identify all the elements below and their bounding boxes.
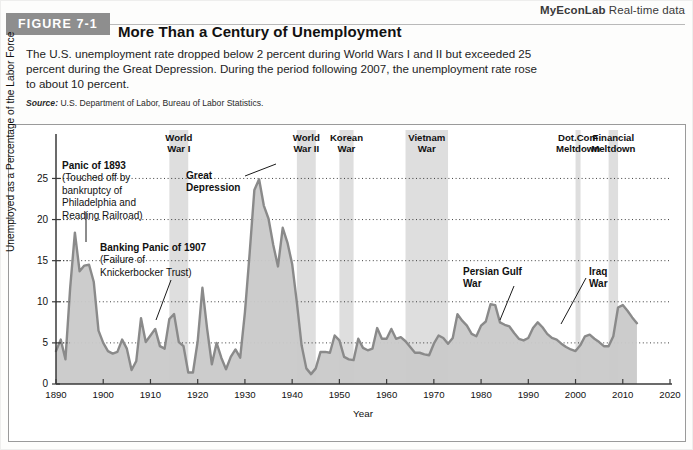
band-label-vietnam-war: VietnamWar [395, 132, 459, 155]
y-tick-label-20: 20 [37, 214, 49, 225]
myeconlab-label: MyEconLab Real-time data [540, 4, 685, 16]
y-axis-title: Unemployed as a Percentage of the Labor … [5, 32, 16, 252]
x-tick-label-1980: 1980 [470, 389, 491, 400]
x-tick-label-1990: 1990 [518, 389, 539, 400]
x-tick-label-1940: 1940 [281, 389, 302, 400]
band-label-line1: Financial [593, 132, 635, 143]
band-label-line1: Korean [330, 132, 363, 143]
y-tick-label-15: 15 [37, 255, 49, 266]
annotation-great-depression: GreatDepression [186, 170, 266, 195]
band-label-line2: Meltdown [591, 143, 635, 154]
y-tick-label-10: 10 [37, 296, 49, 307]
source-text: U.S. Department of Labor, Bureau of Labo… [58, 98, 263, 108]
x-tick-label-2010: 2010 [612, 389, 633, 400]
chart-container: 0510152025189019001910192019301940195019… [8, 124, 686, 442]
band-label-line1: Vietnam [408, 132, 445, 143]
x-tick-label-1920: 1920 [187, 389, 208, 400]
y-tick-label-0: 0 [42, 378, 48, 389]
band-label-world-war-i: WorldWar I [147, 132, 211, 155]
band-label-line2: War [338, 143, 356, 154]
source-label: Source: [26, 98, 58, 108]
annotation-persian-gulf-war: Persian GulfWar [463, 266, 543, 291]
x-tick-label-1890: 1890 [45, 389, 66, 400]
x-tick-label-1910: 1910 [140, 389, 161, 400]
figure-description: The U.S. unemployment rate dropped below… [26, 46, 546, 92]
band-label-korean-war: KoreanWar [314, 132, 378, 155]
x-axis-title: Year [353, 408, 374, 419]
x-tick-label-1950: 1950 [329, 389, 350, 400]
x-tick-label-2020: 2020 [659, 389, 680, 400]
y-tick-label-25: 25 [37, 173, 49, 184]
band-label-line1: World [165, 132, 192, 143]
x-tick-label-1900: 1900 [93, 389, 114, 400]
band-label-financial-meltdown: FinancialMeltdown [581, 132, 645, 155]
band-label-line2: War I [167, 143, 190, 154]
annotation-panic-1893: Panic of 1893(Touched off bybankruptcy o… [62, 160, 182, 222]
band-label-line2: War [418, 143, 436, 154]
x-tick-label-1960: 1960 [376, 389, 397, 400]
myeconlab-suffix: Real-time data [606, 4, 685, 16]
page-title: More Than a Century of Unemployment [118, 23, 402, 40]
x-tick-label-1970: 1970 [423, 389, 444, 400]
annotation-title: Banking Panic of 1907 [100, 242, 206, 253]
annotation-iraq-war: IraqWar [589, 266, 637, 291]
myeconlab-brand: MyEconLab [540, 4, 605, 16]
annotation-banking-panic-1907: Banking Panic of 1907(Failure ofKnickerb… [100, 242, 265, 279]
figure-page: MyEconLab Real-time data FIGURE 7-1 More… [0, 0, 693, 450]
figure-badge: FIGURE 7-1 [6, 13, 110, 35]
annotation-title: Panic of 1893 [62, 160, 126, 171]
y-tick-label-5: 5 [42, 337, 48, 348]
figure-source: Source: U.S. Department of Labor, Bureau… [26, 98, 263, 108]
x-tick-label-1930: 1930 [234, 389, 255, 400]
x-tick-label-2000: 2000 [565, 389, 586, 400]
